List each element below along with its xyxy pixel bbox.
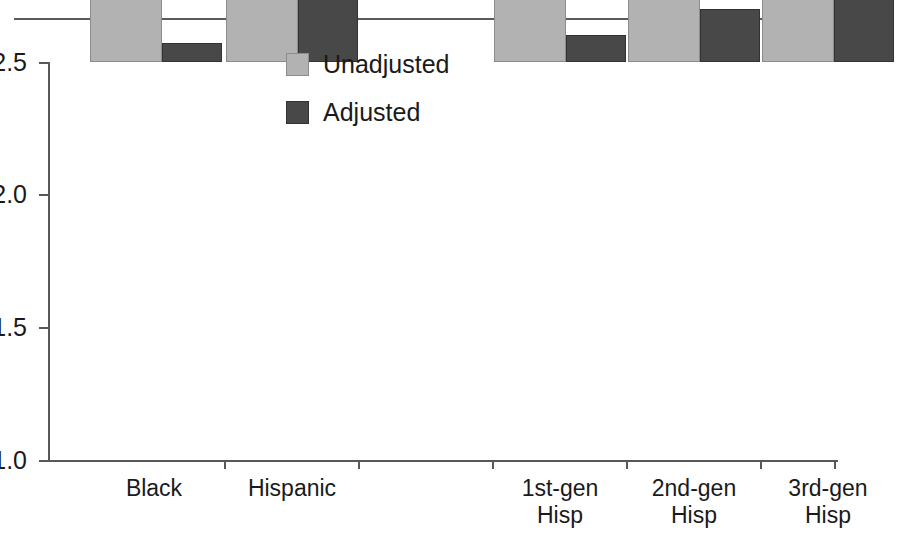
legend-swatch-adjusted-icon [286,101,309,124]
category-line-1: 1st-gen [490,475,630,502]
category-line-2: Hisp [490,502,630,529]
x-category-label-hispanic: Hispanic [218,475,366,502]
category-line-2: Hisp [624,502,764,529]
x-category-label-2nd-gen-hisp: 2nd-gen Hisp [624,475,764,529]
bar-black-unadjusted [90,0,162,62]
bar-2nd-gen-hisp-unadjusted [628,0,700,62]
bar-1st-gen-hisp-adjusted [566,35,626,62]
y-tick-label-1-0: 1.0 [0,446,27,475]
chart-legend: Unadjusted Adjusted [286,44,516,140]
legend-label-unadjusted: Unadjusted [323,50,449,79]
x-axis-line [48,460,838,462]
category-line-1: 2nd-gen [624,475,764,502]
x-category-label-1st-gen-hisp: 1st-gen Hisp [490,475,630,529]
y-tick-2-0: 2.0 [39,194,48,196]
legend-swatch-unadjusted-icon [286,53,309,76]
x-tick-separator-6 [834,460,836,469]
y-tick-2-5: 2.5 [39,62,48,64]
x-tick-separator-4 [626,460,628,469]
x-tick-separator-3 [492,460,494,469]
x-tick-separator-1 [224,460,226,469]
bar-2nd-gen-hisp-adjusted [700,9,760,62]
x-category-label-black: Black [84,475,224,502]
bar-black-adjusted [162,43,222,62]
x-tick-separator-5 [760,460,762,469]
category-line-1: 3rd-gen [758,475,898,502]
x-category-label-3rd-gen-hisp: 3rd-gen Hisp [758,475,898,529]
category-line-2: Hisp [758,502,898,529]
category-line-1: Black [84,475,224,502]
legend-item-adjusted: Adjusted [286,92,516,132]
y-tick-label-2-0: 2.0 [0,180,27,209]
bar-3rd-gen-hisp-unadjusted [762,0,834,62]
legend-item-unadjusted: Unadjusted [286,44,516,84]
y-axis-line [48,62,50,460]
y-tick-label-2-5: 2.5 [0,48,27,77]
legend-label-adjusted: Adjusted [323,98,420,127]
y-tick-1-0: 1.0 [39,460,48,462]
bar-3rd-gen-hisp-adjusted [834,0,894,62]
category-line-1: Hispanic [218,475,366,502]
x-tick-separator-2 [358,460,360,469]
y-tick-label-1-5: 1.5 [0,313,27,342]
y-tick-1-5: 1.5 [39,327,48,329]
